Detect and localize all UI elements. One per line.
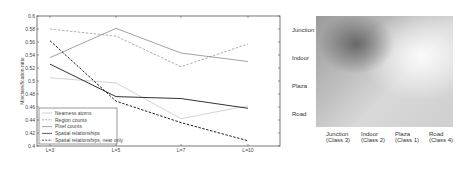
legend-label: Pixel counts: [55, 123, 82, 129]
x-tick-label: L=3: [46, 147, 55, 153]
line-chart-svg: 0.40.420.440.460.480.50.520.540.560.580.…: [0, 0, 290, 174]
legend-label: Spatial relationships, near only: [55, 137, 124, 143]
col-label-line2: (Class 4): [429, 137, 453, 143]
legend-label: Region counts: [55, 117, 87, 123]
heatmap-row-label: Plaza: [292, 83, 307, 89]
heatmap-col-label: Plaza(Class 1): [395, 131, 419, 143]
y-tick-label: 0.5: [28, 78, 35, 84]
legend-label: Spatial relationships: [55, 130, 100, 136]
y-tick-label: 0.42: [25, 130, 35, 136]
y-tick-label: 0.46: [25, 104, 35, 110]
y-tick-label: 0.58: [25, 26, 35, 32]
y-tick-label: 0.44: [25, 117, 35, 123]
y-axis-label: Misclassification ratio: [19, 57, 25, 104]
heatmap-row-label: Road: [292, 111, 306, 117]
col-label-line2: (Class 1): [395, 137, 419, 143]
x-tick-label: L=5: [112, 147, 121, 153]
series-line: [50, 64, 248, 108]
heatmap-col-label: Junction(Class 3): [326, 131, 350, 143]
y-tick-label: 0.56: [25, 39, 35, 45]
series-line: [50, 29, 248, 67]
heatmap-col-label: Road(Class 4): [429, 131, 453, 143]
y-tick-label: 0.52: [25, 65, 35, 71]
x-tick-label: L=10: [242, 147, 253, 153]
heatmap-row-label: Indoor: [292, 55, 309, 61]
col-label-line2: (Class 2): [361, 137, 385, 143]
y-tick-label: 0.4: [28, 143, 35, 149]
y-tick-label: 0.6: [28, 13, 35, 19]
col-label-line2: (Class 3): [326, 137, 350, 143]
x-tick-label: L=7: [177, 147, 186, 153]
line-chart: 0.40.420.440.460.480.50.520.540.560.580.…: [0, 0, 290, 174]
y-tick-label: 0.54: [25, 52, 35, 58]
legend-label: Nearness atoms: [55, 110, 92, 116]
y-tick-label: 0.48: [25, 91, 35, 97]
heatmap-col-label: Indoor(Class 2): [361, 131, 385, 143]
series-line: [50, 28, 248, 61]
heatmap-row-label: Junction: [292, 27, 314, 33]
heatmap-panel: Junction Indoor Plaza Road Junction(Clas…: [290, 0, 474, 174]
heatmap-image: [316, 16, 453, 127]
